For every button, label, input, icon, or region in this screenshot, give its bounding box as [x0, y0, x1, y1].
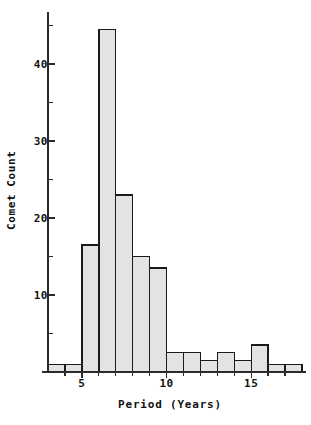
histogram-bar	[82, 245, 99, 372]
x-tick-label: 10	[152, 377, 182, 390]
histogram-bar	[167, 353, 184, 372]
histogram-bar	[268, 364, 285, 372]
histogram-bar	[99, 29, 116, 372]
histogram-bar	[65, 364, 82, 372]
y-tick-label: 20	[26, 212, 48, 225]
histogram-bar	[251, 345, 268, 372]
x-tick-label: 5	[67, 377, 97, 390]
histogram-bar	[217, 353, 234, 372]
x-tick-label: 15	[236, 377, 266, 390]
histogram-bar	[116, 195, 133, 372]
histogram-bar	[48, 364, 65, 372]
histogram-bar	[234, 360, 251, 372]
x-axis-tick-labels: 51015	[0, 377, 311, 399]
y-tick-label: 40	[26, 58, 48, 71]
histogram-bar	[133, 257, 150, 372]
histogram-bar	[183, 353, 200, 372]
comet-period-histogram: Comet Count Period (Years) 10203040 5101…	[0, 0, 311, 425]
histogram-bar	[150, 268, 167, 372]
histogram-bar	[285, 364, 302, 372]
histogram-bar	[200, 360, 217, 372]
y-axis-tick-labels: 10203040	[0, 0, 48, 425]
y-tick-label: 30	[26, 135, 48, 148]
y-tick-label: 10	[26, 289, 48, 302]
